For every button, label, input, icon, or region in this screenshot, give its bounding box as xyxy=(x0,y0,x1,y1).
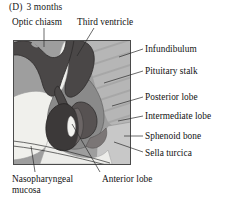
label-anterior-lobe: Anterior lobe xyxy=(102,174,152,185)
label-intermediate-lobe: Intermediate lobe xyxy=(145,111,211,122)
label-infundibulum: Infundibulum xyxy=(145,44,197,55)
label-sphenoid-bone: Sphenoid bone xyxy=(145,131,201,142)
label-sella-turcica: Sella turcica xyxy=(145,148,192,159)
label-posterior-lobe: Posterior lobe xyxy=(145,92,198,103)
label-optic-chiasm: Optic chiasm xyxy=(12,17,62,28)
figure-panel: (D)3 months xyxy=(0,0,238,207)
label-nasopharyngeal-mucosa: Nasopharyngeal mucosa xyxy=(12,174,96,195)
illustration-body xyxy=(13,40,131,166)
label-pituitary-stalk: Pituitary stalk xyxy=(145,66,198,77)
label-third-ventricle: Third ventricle xyxy=(77,17,133,28)
